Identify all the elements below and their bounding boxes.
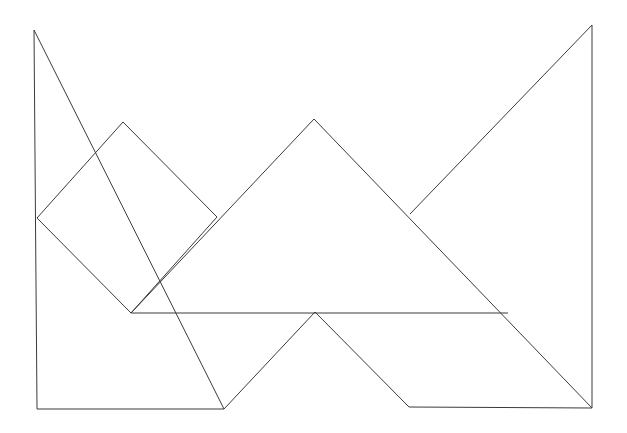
tangram-dissection-drawing (0, 0, 627, 433)
segment-square-lower-left-side (37, 218, 131, 313)
segment-square-upper-right-side (123, 122, 217, 217)
segment-small-triangle-right-side (224, 312, 315, 409)
segment-left-vertical-edge (34, 30, 37, 409)
segment-square-upper-left-side (37, 122, 123, 218)
segment-center-triangle-left-side (131, 119, 314, 313)
segment-parallelogram-left-side (315, 312, 409, 407)
tangram-figure-canvas (0, 0, 627, 433)
segment-right-triangle-hypotenuse (410, 25, 592, 214)
segment-top-left-hypotenuse (34, 30, 224, 409)
pieces-layer (34, 25, 592, 409)
segment-center-triangle-right-side (314, 119, 592, 408)
segment-parallelogram-bottom-side (409, 407, 592, 408)
